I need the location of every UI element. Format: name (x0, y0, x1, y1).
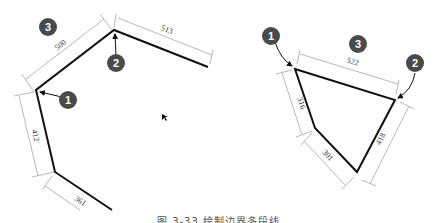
diagram-canvas: 500 513 412 361 3 2 (0, 0, 437, 223)
callout-3: 3 (349, 35, 367, 53)
dimension-label-522: 522 (346, 56, 360, 68)
callout-2-leader (115, 34, 116, 57)
callout-2: 2 (107, 54, 125, 72)
right-diagram: 522 316 301 418 1 3 (262, 27, 424, 189)
dimension-label-412: 412 (30, 129, 41, 143)
right-polygon (295, 69, 395, 172)
left-diagram: 500 513 412 361 3 2 (14, 14, 213, 210)
callout-3: 3 (39, 18, 57, 36)
dimension-513 (114, 14, 213, 64)
dimension-500 (22, 14, 112, 92)
figure-caption: 图 3-33 绘制边界多段线 (0, 213, 437, 223)
callout-1-leader (40, 92, 62, 97)
callout-1: 1 (262, 27, 280, 45)
svg-text:2: 2 (412, 57, 418, 69)
dimension-361 (42, 176, 80, 210)
svg-text:2: 2 (113, 57, 119, 69)
svg-text:1: 1 (268, 30, 274, 42)
callout-1: 1 (59, 91, 77, 109)
dimension-label-361: 361 (73, 194, 88, 208)
dimension-label-500: 500 (53, 38, 68, 52)
callout-2-leader (398, 73, 415, 98)
cursor-icon (162, 114, 168, 121)
callout-1-leader (275, 42, 292, 66)
dimension-label-513: 513 (160, 23, 174, 36)
svg-text:3: 3 (355, 38, 361, 50)
callout-2: 2 (406, 54, 424, 72)
svg-text:3: 3 (45, 21, 51, 33)
svg-text:1: 1 (65, 94, 71, 106)
